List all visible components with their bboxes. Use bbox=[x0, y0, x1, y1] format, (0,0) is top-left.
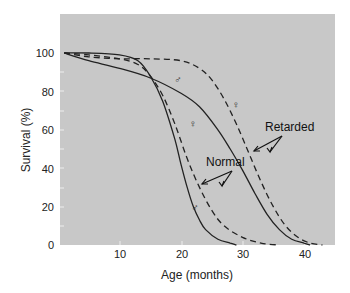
male-symbol-retarded: ♂ bbox=[174, 74, 182, 85]
survival-chart: 0 20 40 60 80 100 10 20 30 40 Age (month… bbox=[0, 0, 350, 293]
y-tick-0: 0 bbox=[48, 239, 54, 251]
y-tick-80: 80 bbox=[42, 86, 54, 98]
y-tick-60: 60 bbox=[42, 124, 54, 136]
normal-label: Normal bbox=[206, 155, 245, 169]
y-tick-20: 20 bbox=[42, 201, 54, 213]
y-ticks: 0 20 40 60 80 100 bbox=[36, 47, 64, 251]
y-tick-100: 100 bbox=[36, 47, 54, 59]
female-symbol-normal: ♀ bbox=[189, 118, 197, 129]
x-tick-10: 10 bbox=[114, 248, 126, 260]
y-tick-40: 40 bbox=[42, 163, 54, 175]
male-symbol-normal: ♂ bbox=[191, 202, 199, 213]
x-tick-20: 20 bbox=[176, 248, 188, 260]
x-axis-label: Age (months) bbox=[161, 268, 233, 282]
x-tick-30: 30 bbox=[237, 248, 249, 260]
female-symbol-retarded: ♀ bbox=[232, 99, 240, 110]
retarded-label: Retarded bbox=[265, 120, 314, 134]
y-axis-label: Survival (%) bbox=[19, 108, 33, 173]
x-tick-40: 40 bbox=[299, 248, 311, 260]
